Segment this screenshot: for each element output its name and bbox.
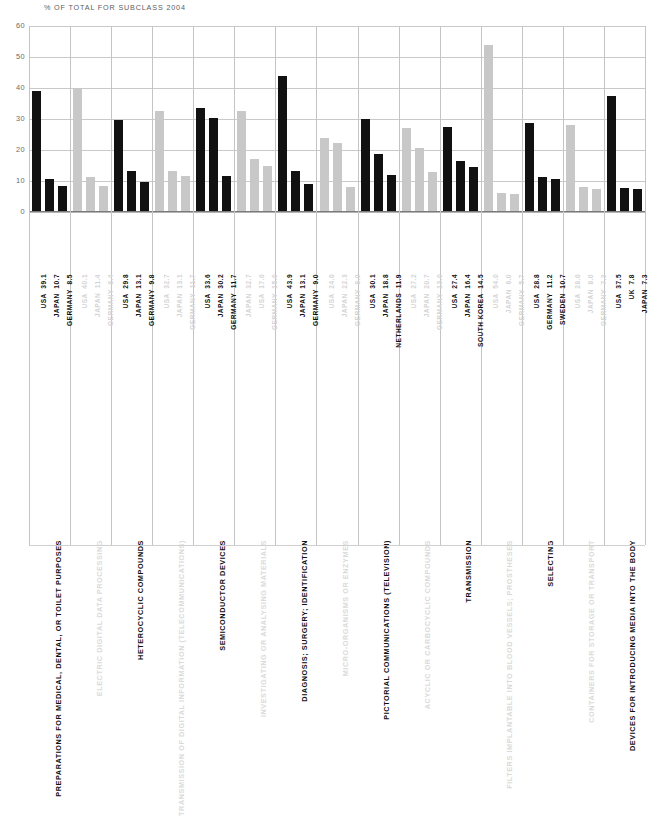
- bar: [86, 177, 95, 212]
- bar: [402, 128, 411, 212]
- category-label: TRANSMISSION: [464, 540, 473, 603]
- bar: [497, 193, 506, 212]
- bar: [32, 91, 41, 212]
- bar: [250, 159, 259, 212]
- bar: [333, 143, 342, 212]
- category-label: CONTAINERS FOR STORAGE OR TRANSPORT: [587, 540, 596, 723]
- bar: [469, 167, 478, 212]
- bar: [361, 119, 370, 212]
- bottom-rule: [29, 545, 645, 546]
- bar: [209, 118, 218, 212]
- category-label: DEVICES FOR INTRODUCING MEDIA INTO THE B…: [628, 540, 637, 751]
- bar: [45, 179, 54, 212]
- bar: [181, 176, 190, 212]
- bar: [320, 138, 329, 212]
- category-label: PREPARATIONS FOR MEDICAL, DENTAL, OR TOI…: [54, 540, 63, 797]
- bar: [73, 88, 82, 212]
- y-axis-tick-60: 60: [3, 21, 25, 30]
- bar: [278, 76, 287, 212]
- bar: [633, 189, 642, 212]
- x-axis-baseline: [29, 211, 645, 212]
- category-label: HETEROCYCLIC COMPOUNDS: [136, 540, 145, 660]
- chart-title: % OF TOTAL FOR SUBCLASS 2004: [44, 3, 186, 12]
- bar: [443, 127, 452, 212]
- bar: [114, 120, 123, 212]
- category-label: SEMICONDUCTOR DEVICES: [218, 540, 227, 651]
- gridline-0: [29, 212, 645, 213]
- bar: [484, 45, 493, 212]
- y-axis-tick-20: 20: [3, 145, 25, 154]
- category-label: TRANSMISSION OF DIGITAL INFORMATION (TEL…: [177, 540, 186, 816]
- bar: [456, 161, 465, 212]
- category-label: SELECTING: [546, 540, 555, 587]
- value-labels-band: USA 39.1JAPAN 10.7GERMANY 8.5USA 40.1JAP…: [29, 214, 645, 276]
- bar: [620, 188, 629, 212]
- bar: [99, 186, 108, 212]
- y-axis-tick-40: 40: [3, 83, 25, 92]
- bar: [566, 125, 575, 212]
- bar: [58, 186, 67, 212]
- bar: [374, 154, 383, 212]
- bar: [551, 179, 560, 212]
- bar: [592, 189, 601, 212]
- plot-area: 0102030405060: [29, 26, 645, 212]
- bar: [140, 182, 149, 212]
- category-labels-band: PREPARATIONS FOR MEDICAL, DENTAL, OR TOI…: [29, 282, 645, 544]
- bar: [510, 194, 519, 212]
- bar: [538, 177, 547, 212]
- bar: [222, 176, 231, 212]
- bar: [304, 184, 313, 212]
- bar: [387, 175, 396, 212]
- bar: [196, 108, 205, 212]
- bar: [291, 171, 300, 212]
- bar: [415, 148, 424, 212]
- bar: [579, 187, 588, 212]
- bar: [155, 111, 164, 212]
- bar: [346, 187, 355, 212]
- bar: [127, 171, 136, 212]
- category-label: ACYCLIC OR CARBOCYCLIC COMPOUNDS: [423, 540, 432, 709]
- category-label: FILTERS IMPLANTABLE INTO BLOOD VESSELS; …: [505, 540, 514, 789]
- category-label: DIAGNOSIS; SURGERY; IDENTIFICATION: [300, 540, 309, 702]
- bars-layer: [29, 26, 645, 212]
- y-axis-tick-0: 0: [3, 207, 25, 216]
- category-label: PICTORIAL COMMUNICATIONS (TELEVISION): [382, 540, 391, 720]
- category-label: ELECTRIC DIGITAL DATA PROCESSING: [95, 540, 104, 696]
- bar: [237, 111, 246, 212]
- y-axis-tick-10: 10: [3, 176, 25, 185]
- bar: [525, 123, 534, 212]
- bar: [607, 96, 616, 212]
- y-axis-tick-30: 30: [3, 114, 25, 123]
- y-axis-tick-50: 50: [3, 52, 25, 61]
- category-label: INVESTIGATING OR ANALYSING MATERIALS: [259, 540, 268, 717]
- bar: [428, 172, 437, 212]
- bar: [263, 166, 272, 213]
- bar: [168, 171, 177, 212]
- category-label: MICRO-ORGANISMS OR ENZYMES: [341, 540, 350, 676]
